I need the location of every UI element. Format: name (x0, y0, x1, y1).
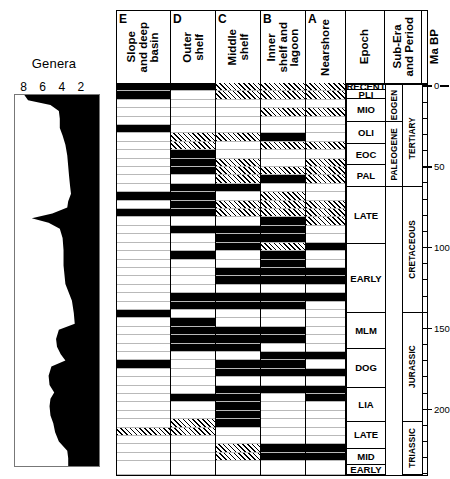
facies-cell (306, 318, 345, 326)
facies-cell (117, 335, 170, 343)
scale-major-tick (423, 409, 432, 410)
facies-cell (171, 268, 215, 276)
column-label-mabp: Ma BP (429, 29, 441, 64)
column-header-E: E Slope and deep basin (117, 11, 171, 83)
facies-cell (117, 201, 170, 209)
scale-minor-tick (423, 182, 428, 183)
facies-cell (306, 159, 345, 167)
facies-cell (171, 369, 215, 377)
scale-minor-tick (423, 473, 428, 474)
facies-cell (216, 117, 260, 125)
column-header-B: B Inner shelf and lagoon (261, 11, 306, 83)
facies-cell (117, 159, 170, 167)
facies-cell (216, 175, 260, 183)
facies-cell (306, 217, 345, 225)
facies-cell (171, 260, 215, 268)
epoch-label: EOC (356, 149, 377, 160)
facies-cell (261, 260, 305, 268)
facies-cell (216, 260, 260, 268)
facies-cell (117, 175, 170, 183)
facies-cell (216, 133, 260, 141)
epoch-column: RECENTPLIMIOOLIEOCPALLATEEARLYMLMDOGLIAL… (346, 83, 385, 475)
scale-minor-tick (423, 150, 428, 151)
facies-cell (261, 444, 305, 452)
scale-minor-tick (423, 393, 428, 394)
facies-cell (216, 318, 260, 326)
facies-cell (171, 209, 215, 217)
epoch-cell: LATE (347, 187, 385, 244)
facies-cell (216, 344, 260, 352)
facies-cell (216, 293, 260, 301)
facies-cell (171, 293, 215, 301)
epoch-label: DOG (355, 362, 377, 373)
scale-minor-tick (423, 102, 428, 103)
facies-cell (306, 386, 345, 394)
facies-cell (216, 335, 260, 343)
facies-cell (216, 209, 260, 217)
facies-column-E (117, 83, 171, 475)
facies-cell (306, 260, 345, 268)
facies-cell (117, 428, 170, 436)
facies-column-D (171, 83, 216, 475)
facies-cell (261, 100, 305, 108)
facies-cell (171, 243, 215, 251)
facies-cell (306, 344, 345, 352)
facies-cell (261, 411, 305, 419)
facies-cell (216, 352, 260, 360)
facies-cell (306, 133, 345, 141)
facies-cell (261, 302, 305, 310)
facies-cell (117, 276, 170, 284)
facies-cell (117, 369, 170, 377)
facies-cell (117, 394, 170, 402)
scale-zero-dash (440, 85, 449, 86)
subera-column: NEOGENEPALEOGENE (385, 83, 402, 475)
facies-cell (261, 150, 305, 158)
facies-cell (117, 192, 170, 200)
facies-cell (306, 428, 345, 436)
facies-cell (117, 285, 170, 293)
epoch-label: PAL (357, 170, 375, 181)
facies-cell (306, 175, 345, 183)
epoch-cell: MLM (347, 313, 385, 349)
column-header-A: A Nearshore (306, 11, 346, 83)
facies-cell (306, 369, 345, 377)
scale-minor-tick (423, 279, 428, 280)
facies-cell (306, 209, 345, 217)
facies-cell (306, 100, 345, 108)
epoch-cell: EARLY (347, 465, 385, 475)
epoch-cell: MID (347, 449, 385, 465)
facies-cell (216, 436, 260, 444)
scale-minor-tick (423, 199, 428, 200)
facies-cell (216, 461, 260, 475)
facies-cell (261, 201, 305, 209)
facies-cell (306, 394, 345, 402)
column-label-epoch: Epoch (359, 29, 371, 64)
facies-cell (306, 352, 345, 360)
facies-cell (117, 444, 170, 452)
facies-cell (171, 335, 215, 343)
facies-cell (216, 285, 260, 293)
facies-cell (216, 234, 260, 242)
facies-cell (171, 159, 215, 167)
facies-cell (261, 251, 305, 259)
facies-cell (117, 461, 170, 475)
epoch-label: MID (357, 451, 374, 462)
facies-cell (306, 335, 345, 343)
facies-cell (171, 285, 215, 293)
column-label-subera: Sub-Era and Period (392, 17, 415, 76)
facies-cell (216, 150, 260, 158)
scale-major-tick (423, 247, 432, 248)
facies-cell (216, 217, 260, 225)
facies-cell (216, 360, 260, 368)
facies-cell (216, 268, 260, 276)
facies-cell (261, 285, 305, 293)
facies-cell (306, 377, 345, 385)
facies-cell (261, 142, 305, 150)
facies-cell (306, 201, 345, 209)
facies-cell (117, 217, 170, 225)
facies-cell (117, 150, 170, 158)
genera-panel: Genera 8642 (0, 50, 112, 479)
facies-cell (306, 192, 345, 200)
facies-cell (117, 184, 170, 192)
facies-cell (306, 276, 345, 284)
